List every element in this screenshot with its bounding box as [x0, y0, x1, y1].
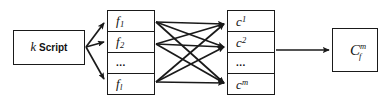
- script-word: Script: [39, 42, 67, 53]
- edges-features-to-classes: [156, 22, 224, 83]
- class-label-last: cm: [236, 78, 248, 91]
- feature-cell-last: fl: [108, 74, 154, 94]
- class-cell-1: c1: [228, 11, 274, 32]
- feature-stack: f1 f2 ... fl: [107, 10, 155, 95]
- feature-cell-ellipsis: ...: [108, 53, 154, 74]
- result-label: Cmf: [350, 43, 360, 58]
- class-cell-last: cm: [228, 74, 274, 94]
- feature-cell-1: f1: [108, 11, 154, 32]
- class-stack: c1 c2 ... cm: [227, 10, 275, 95]
- feature-ellipsis: ...: [116, 58, 126, 68]
- result-box: Cmf: [332, 28, 378, 72]
- feature-label-1: f1: [116, 14, 124, 29]
- script-symbol: k: [31, 40, 37, 54]
- feature-label-2: f2: [116, 35, 124, 50]
- class-cell-ellipsis: ...: [228, 53, 274, 74]
- edges-script-to-features: [86, 23, 104, 79]
- script-box-label: kScript: [31, 40, 68, 55]
- feature-cell-2: f2: [108, 32, 154, 53]
- script-box: kScript: [13, 30, 85, 65]
- class-ellipsis: ...: [236, 58, 246, 68]
- class-label-2: c2: [236, 36, 246, 49]
- class-label-1: c1: [236, 15, 246, 28]
- class-cell-2: c2: [228, 32, 274, 53]
- feature-label-last: fl: [116, 77, 122, 92]
- diagram-canvas: kScript f1 f2 ... fl c1 c2 ... cm Cmf: [0, 0, 388, 103]
